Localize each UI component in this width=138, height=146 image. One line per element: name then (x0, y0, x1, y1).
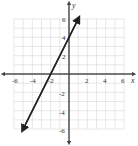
tick-y--4: -4 (59, 109, 65, 117)
tick-y-6: 6 (62, 16, 66, 24)
coordinate-plane: -6 -4 -2 2 4 6 6 4 2 -2 -4 -6 x y (0, 0, 138, 146)
tick-x--4: -4 (30, 77, 36, 85)
y-axis-label: y (71, 1, 76, 10)
tick-y-2: 2 (62, 53, 66, 61)
tick-y-4: 4 (62, 34, 66, 42)
tick-y--6: -6 (59, 127, 65, 135)
tick-x-2: 2 (85, 77, 89, 85)
tick-x--6: -6 (12, 77, 18, 85)
tick-x-4: 4 (103, 77, 107, 85)
tick-x-6: 6 (121, 77, 125, 85)
x-axis-label: x (130, 76, 135, 85)
tick-y--2: -2 (59, 90, 65, 98)
